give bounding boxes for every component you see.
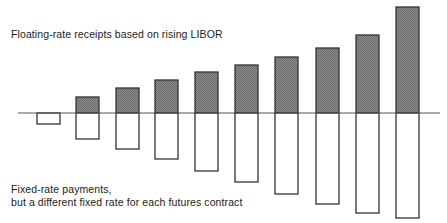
- payment-bar-8: [316, 113, 339, 204]
- futures-strip-hedge-figure: Floating-rate receipts based on rising L…: [0, 0, 447, 223]
- receipt-bar-9: [356, 35, 379, 113]
- payment-bar-3: [116, 113, 139, 149]
- payment-bar-7: [275, 113, 298, 194]
- payment-bar-4: [155, 113, 178, 159]
- payments-annotation-line-2: but a different fixed rate for each futu…: [11, 196, 242, 209]
- payments-annotation-line-1: Fixed-rate payments,: [11, 183, 242, 196]
- receipt-bar-10: [396, 7, 419, 113]
- payments-annotation: Fixed-rate payments, but a different fix…: [11, 183, 242, 209]
- bar-pair-6: [235, 65, 258, 182]
- payment-bar-9: [356, 113, 379, 213]
- receipt-bar-5: [195, 72, 218, 113]
- receipt-bar-2: [76, 97, 99, 113]
- bar-pair-3: [116, 88, 139, 149]
- receipt-bar-8: [316, 48, 339, 113]
- receipt-bar-6: [235, 65, 258, 113]
- receipts-annotation-line: Floating-rate receipts based on rising L…: [11, 28, 223, 41]
- receipts-annotation: Floating-rate receipts based on rising L…: [11, 28, 223, 41]
- bar-pair-4: [155, 80, 178, 159]
- receipt-bar-4: [155, 80, 178, 113]
- bar-pair-8: [316, 48, 339, 204]
- receipt-bar-3: [116, 88, 139, 113]
- payment-bar-6: [235, 113, 258, 182]
- bar-pair-5: [195, 72, 218, 171]
- bar-pair-1: [37, 113, 60, 124]
- payment-bar-2: [76, 113, 99, 139]
- bar-pair-9: [356, 35, 379, 213]
- bar-pair-7: [275, 57, 298, 194]
- bar-pair-2: [76, 97, 99, 139]
- payment-bar-5: [195, 113, 218, 171]
- payment-bar-10: [396, 113, 419, 218]
- receipt-bar-7: [275, 57, 298, 113]
- payment-bar-1: [37, 113, 60, 124]
